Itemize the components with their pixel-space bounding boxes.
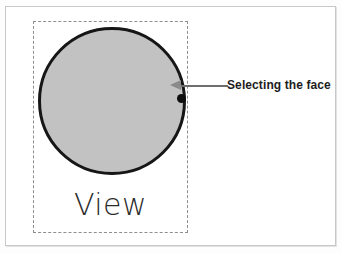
callout-leader-line (180, 85, 228, 87)
callout-arrow-icon (170, 80, 181, 90)
callout-label: Selecting the face (227, 78, 331, 92)
figure-screenshot: Selecting the face View (0, 0, 341, 254)
selection-point-marker[interactable] (177, 94, 186, 103)
view-caption: View (33, 189, 188, 221)
circular-face-shape[interactable] (38, 27, 186, 175)
